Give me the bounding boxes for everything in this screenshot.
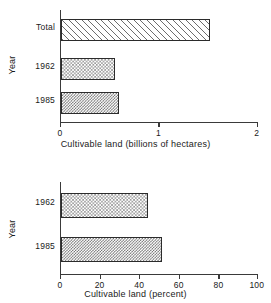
x-axis-title-bottom: Cultivable land (percent) [0,289,271,299]
x-tick-label-1: 1 [156,128,161,138]
chart-cultivable-land-percent: Year 1962 1985 0 20 40 60 80 100 Cultiva… [0,158,271,303]
bar-1962-percent [61,193,148,218]
x-tick-mark-2 [257,123,258,127]
x-tick-mark-40-pct [139,275,140,279]
y-tick-label-1962-bottom: 1962 [35,197,55,207]
y-tick-label-1985: 1985 [35,95,55,105]
x-tick-mark-1 [158,123,159,127]
y-tick-label-1985-bottom: 1985 [35,241,55,251]
x-tick-mark-100-pct [257,275,258,279]
x-tick-mark-20-pct [100,275,101,279]
plot-area-bottom [60,182,258,275]
x-tick-mark-0 [60,123,61,127]
chart-cultivable-land-hectares: Year Total 1962 1985 0 1 2 Cultivable la… [0,0,271,158]
y-tick-label-1962: 1962 [35,61,55,71]
x-tick-mark-80-pct [218,275,219,279]
x-tick-mark-0-pct [60,275,61,279]
x-tick-label-2: 2 [254,128,259,138]
plot-area-top [60,10,258,123]
x-tick-label-0: 0 [58,128,63,138]
bar-1962 [61,58,115,80]
y-axis-title-top: Year [7,45,17,85]
x-tick-mark-60-pct [179,275,180,279]
x-axis-title-top: Cultivable land (billions of hectares) [0,139,271,149]
bar-1985 [61,92,119,114]
bar-total [61,19,210,41]
x-axis-ticks-top: 0 1 2 [60,123,258,139]
y-axis-title-bottom: Year [7,209,17,249]
y-tick-label-total: Total [36,22,55,32]
bar-1985-percent [61,237,162,262]
